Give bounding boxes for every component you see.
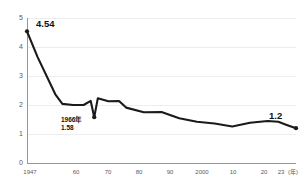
x-tick-2000: 2000 [195,169,209,175]
x-tick-1947: 1947 [23,169,37,175]
x-tick-1980: 80 [136,169,143,175]
x-tick-2010: 10 [230,169,237,175]
x-tick-1990: 90 [167,169,174,175]
fertility-rate-chart: 5 4 3 2 1 0 1947 60 70 80 90 2000 10 20 … [0,0,301,185]
y-tick-1: 1 [19,130,23,137]
y-tick-5: 5 [19,14,23,21]
end-point-marker [294,126,298,130]
y-tick-0: 0 [19,159,23,166]
annotation-start-value: 4.54 [36,18,55,29]
y-tick-2: 2 [19,101,23,108]
annotation-hinoeuma-value: 1.58 [61,124,74,131]
y-tick-4: 4 [19,43,23,50]
x-tick-2020: 20 [261,169,268,175]
x-tick-1960: 60 [73,169,80,175]
start-point-marker [25,29,29,33]
x-axis-unit-label: (年) [288,168,298,176]
annotation-hinoeuma-year: 1966年 [61,115,82,124]
x-tick-1970: 70 [105,169,112,175]
y-tick-3: 3 [19,72,23,79]
chart-canvas: 5 4 3 2 1 0 1947 60 70 80 90 2000 10 20 … [0,0,301,185]
hinoeuma-point-marker [92,115,96,119]
annotation-end-value: 1.2 [269,110,282,121]
x-tick-2023: 23 [278,169,285,175]
